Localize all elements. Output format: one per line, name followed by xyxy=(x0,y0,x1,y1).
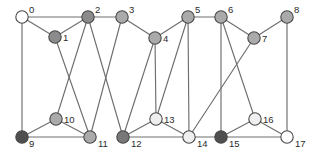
graph-node-label-10: 10 xyxy=(64,114,75,125)
graph-node-1[interactable] xyxy=(49,31,61,43)
graph-edge xyxy=(56,17,88,119)
graph-node-14[interactable] xyxy=(183,131,195,143)
graph-node-11[interactable] xyxy=(84,131,96,143)
graph-edge xyxy=(188,17,189,137)
graph-node-label-5: 5 xyxy=(195,4,200,15)
graph-node-label-15: 15 xyxy=(229,138,240,149)
graph-node-0[interactable] xyxy=(16,11,28,23)
graph-node-12[interactable] xyxy=(117,131,129,143)
graph-node-label-1: 1 xyxy=(63,32,68,43)
graph-node-label-12: 12 xyxy=(131,138,142,149)
graph-node-6[interactable] xyxy=(215,11,227,23)
graph-node-label-4: 4 xyxy=(163,33,168,44)
graph-node-3[interactable] xyxy=(116,11,128,23)
graph-node-17[interactable] xyxy=(281,131,293,143)
graph-node-16[interactable] xyxy=(249,113,261,125)
graph-node-5[interactable] xyxy=(182,11,194,23)
graph-node-label-9: 9 xyxy=(29,138,34,149)
graph-node-label-17: 17 xyxy=(295,138,306,149)
graph-node-4[interactable] xyxy=(149,32,161,44)
graph-node-label-7: 7 xyxy=(262,33,267,44)
graph-node-label-13: 13 xyxy=(164,114,175,125)
graph-node-label-0: 0 xyxy=(29,4,34,15)
graph-node-label-16: 16 xyxy=(263,114,274,125)
graph-edge xyxy=(221,17,255,119)
graph-node-7[interactable] xyxy=(248,32,260,44)
graph-node-9[interactable] xyxy=(16,131,28,143)
graph-node-label-8: 8 xyxy=(294,4,299,15)
node-layer xyxy=(16,11,293,143)
graph-node-label-11: 11 xyxy=(98,138,108,149)
graph-node-label-2: 2 xyxy=(95,4,100,15)
graph-node-10[interactable] xyxy=(50,113,62,125)
graph-node-label-3: 3 xyxy=(129,4,134,15)
graph-edge xyxy=(155,38,156,119)
graph-canvas: 01234567891011121314151617 xyxy=(0,0,318,159)
graph-figure: 01234567891011121314151617 xyxy=(0,0,318,159)
graph-node-15[interactable] xyxy=(215,131,227,143)
graph-edge xyxy=(156,17,188,119)
graph-node-label-14: 14 xyxy=(197,138,208,149)
graph-node-13[interactable] xyxy=(150,113,162,125)
graph-node-label-6: 6 xyxy=(228,4,233,15)
graph-node-2[interactable] xyxy=(82,11,94,23)
graph-node-8[interactable] xyxy=(281,11,293,23)
